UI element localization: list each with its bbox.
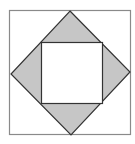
inner-square [42, 43, 103, 104]
shaded-square-diagram [0, 0, 135, 144]
